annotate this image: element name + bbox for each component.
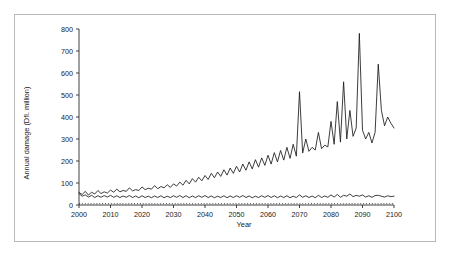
y-tick-label: 100 <box>61 179 73 188</box>
figure-frame: 0100200300400500600700800 20002010202020… <box>14 14 436 242</box>
y-axis: 0100200300400500600700800 <box>61 25 79 210</box>
x-tick-label: 2030 <box>166 210 182 219</box>
x-tick-label: 2090 <box>355 210 371 219</box>
x-tick-label: 2060 <box>260 210 276 219</box>
y-tick-label: 400 <box>61 113 73 122</box>
y-tick-label: 300 <box>61 135 73 144</box>
y-axis-title: Annual damage (Dfl. million) <box>22 87 31 180</box>
data-series-group <box>79 33 394 203</box>
x-tick-label: 2100 <box>386 210 402 219</box>
x-tick-label: 2000 <box>71 210 87 219</box>
series-upper-damage-curve <box>79 33 394 195</box>
x-tick-label: 2010 <box>103 210 119 219</box>
series-lower-damage-curve <box>79 194 394 198</box>
x-tick-label: 2020 <box>134 210 150 219</box>
y-tick-label: 500 <box>61 91 73 100</box>
x-tick-label: 2070 <box>292 210 308 219</box>
annual-damage-line-chart: 0100200300400500600700800 20002010202020… <box>15 15 435 241</box>
x-tick-label: 2080 <box>323 210 339 219</box>
x-axis-title: Year <box>237 220 252 229</box>
x-axis: 2000201020202030204020502060207020802090… <box>71 205 402 219</box>
y-tick-label: 0 <box>69 201 73 210</box>
y-tick-label: 700 <box>61 47 73 56</box>
x-tick-label: 2040 <box>197 210 213 219</box>
y-tick-label: 600 <box>61 69 73 78</box>
y-tick-label: 800 <box>61 25 73 34</box>
y-tick-label: 200 <box>61 157 73 166</box>
x-tick-label: 2050 <box>229 210 245 219</box>
